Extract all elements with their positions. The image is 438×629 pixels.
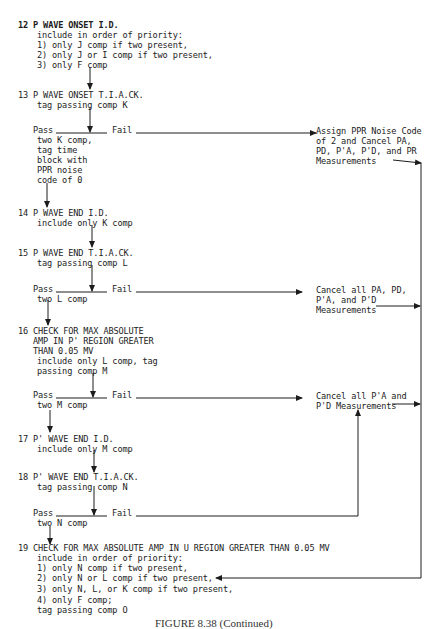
step-13-pass-line: code of 0 <box>37 175 82 185</box>
step-19-line: 4) only F comp; <box>37 595 112 605</box>
action-1-line: of 2 and Cancel PA, <box>316 136 411 146</box>
step-13-pass-line: block with <box>37 155 87 165</box>
action-1-line: Measurements <box>316 156 376 166</box>
step-14-title: 14 P WAVE END I.D. <box>18 208 108 218</box>
step-16-title: THAN 0.05 MV <box>33 346 93 356</box>
step-12-title: 12 P WAVE ONSET I.D. <box>18 20 118 30</box>
step-15-title: 15 P WAVE END T.I.A.CK. <box>18 248 134 258</box>
action-1-line: PD, P'A, P'D, and PR <box>316 146 416 156</box>
step-18-pass-line: two N comp <box>37 518 87 528</box>
step-13-pass-line: PPR noise <box>37 165 82 175</box>
step-12-line: include in order of priority: <box>37 30 183 40</box>
action-2-line: Measurements <box>316 305 376 315</box>
step-16-pass-label: Pass <box>33 390 53 400</box>
step-13-pass-line: two K comp, <box>37 135 92 145</box>
step-18-fail-label: Fail <box>112 508 132 518</box>
step-15-pass-label: Pass <box>33 284 53 294</box>
step-12-line: 3) only F comp <box>37 60 107 70</box>
action-2-line: P'A, and P'D <box>316 295 376 305</box>
step-15-pass-line: two L comp <box>37 294 87 304</box>
figure-caption: FIGURE 8.38 (Continued) <box>155 617 273 629</box>
step-15-fail-label: Fail <box>112 284 132 294</box>
step-14-line: include only K comp <box>37 218 132 228</box>
action-3-line: P'D Measurements <box>316 401 396 411</box>
step-13-title: 13 P WAVE ONSET T.I.A.CK. <box>18 90 144 100</box>
step-12-line: 1) only J comp if two present, <box>37 40 188 50</box>
fail-line-18 <box>136 410 358 516</box>
arrow-action1-to-bus <box>393 160 421 163</box>
step-13-fail-label: Fail <box>112 125 132 135</box>
action-2-line: Cancel all PA, PD, <box>316 285 406 295</box>
step-17-line: include only M comp <box>37 444 132 454</box>
step-13-pass-line: tag time <box>37 145 77 155</box>
step-18-title: 18 P' WAVE END T.I.A.CK. <box>18 472 139 482</box>
step-13-pass-label: Pass <box>33 125 53 135</box>
step-19-title: 19 CHECK FOR MAX ABSOLUTE AMP IN U REGIO… <box>18 543 329 553</box>
step-19-line: tag passing comp O <box>37 605 127 615</box>
step-16-pass-line: two M comp <box>37 400 87 410</box>
step-16-title: AMP IN P' REGION GREATER <box>33 336 154 346</box>
step-19-line: 1) only N comp if two present, <box>37 563 188 573</box>
step-17-title: 17 P' WAVE END I.D. <box>18 434 113 444</box>
step-15-line: tag passing comp L <box>37 258 127 268</box>
step-12-line: 2) only J or I comp if two present, <box>37 50 213 60</box>
step-16-line: include only L comp, tag <box>37 356 158 366</box>
step-16-fail-label: Fail <box>112 390 132 400</box>
step-19-line: 3) only N, L, or K comp if two present, <box>37 584 233 594</box>
step-18-pass-label: Pass <box>33 508 53 518</box>
step-13-line: tag passing comp K <box>37 100 127 110</box>
step-19-line: 2) only N or L comp if two present, <box>37 573 213 583</box>
step-19-line: include in order of priority: <box>37 553 183 563</box>
action-3-line: Cancel all P'A and <box>316 391 406 401</box>
step-16-title: 16 CHECK FOR MAX ABSOLUTE <box>18 326 144 336</box>
action-1-line: Assign PPR Noise Code <box>316 126 422 136</box>
step-16-line: passing comp M <box>37 366 107 376</box>
step-18-line: tag passing comp N <box>37 482 127 492</box>
